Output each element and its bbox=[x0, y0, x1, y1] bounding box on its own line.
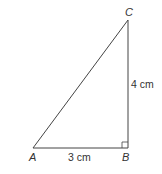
vertex-label-b: B bbox=[122, 151, 129, 163]
side-ab-length: 3 cm bbox=[68, 151, 91, 163]
vertex-label-a: A bbox=[28, 151, 36, 163]
side-bc-length: 4 cm bbox=[131, 78, 154, 90]
vertex-label-c: C bbox=[125, 6, 133, 18]
triangle-diagram: C A B 4 cm 3 cm bbox=[0, 0, 162, 174]
side-ac-hypotenuse bbox=[33, 20, 128, 148]
right-angle-marker bbox=[122, 142, 128, 148]
